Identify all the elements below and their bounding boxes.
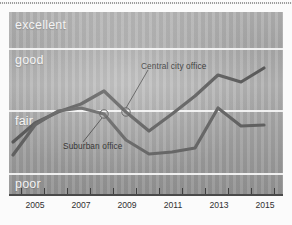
x-axis-tick	[67, 188, 68, 194]
x-axis-tick	[205, 188, 206, 194]
x-axis-label-2009: 2009	[117, 200, 136, 210]
x-axis-tick	[21, 188, 22, 194]
scanned-chart-image: excellent good fair poor Central city of…	[0, 0, 292, 225]
x-axis-label-2015: 2015	[255, 200, 274, 210]
x-axis-tick	[251, 188, 252, 194]
series-line-suburban-office	[13, 108, 264, 155]
x-axis-label-2011: 2011	[164, 200, 182, 210]
x-axis-label-2007: 2007	[71, 200, 90, 210]
annotation-leader-central-city-office	[126, 70, 148, 108]
x-axis-tick	[136, 188, 137, 194]
annotation-label-suburban-office: Suburban office	[63, 141, 122, 151]
x-axis-tick	[44, 188, 45, 194]
x-axis-tick	[228, 188, 229, 194]
x-axis-label-2013: 2013	[209, 200, 228, 210]
x-axis-tick	[90, 188, 91, 194]
chart-series-svg	[9, 12, 283, 194]
annotation-label-central-city-office: Central city office	[141, 61, 206, 71]
x-axis-tick	[113, 188, 114, 194]
x-axis-line	[9, 194, 283, 196]
x-axis-tick	[159, 188, 160, 194]
x-axis-tick	[182, 188, 183, 194]
series-line-central-city-office	[13, 68, 264, 142]
annotation-leader-suburban-office	[83, 118, 102, 142]
scan-artifact-line	[0, 2, 292, 4]
x-axis-tick	[274, 188, 275, 194]
chart-plot-area: excellent good fair poor Central city of…	[9, 12, 283, 194]
x-axis-label-2005: 2005	[25, 200, 44, 210]
